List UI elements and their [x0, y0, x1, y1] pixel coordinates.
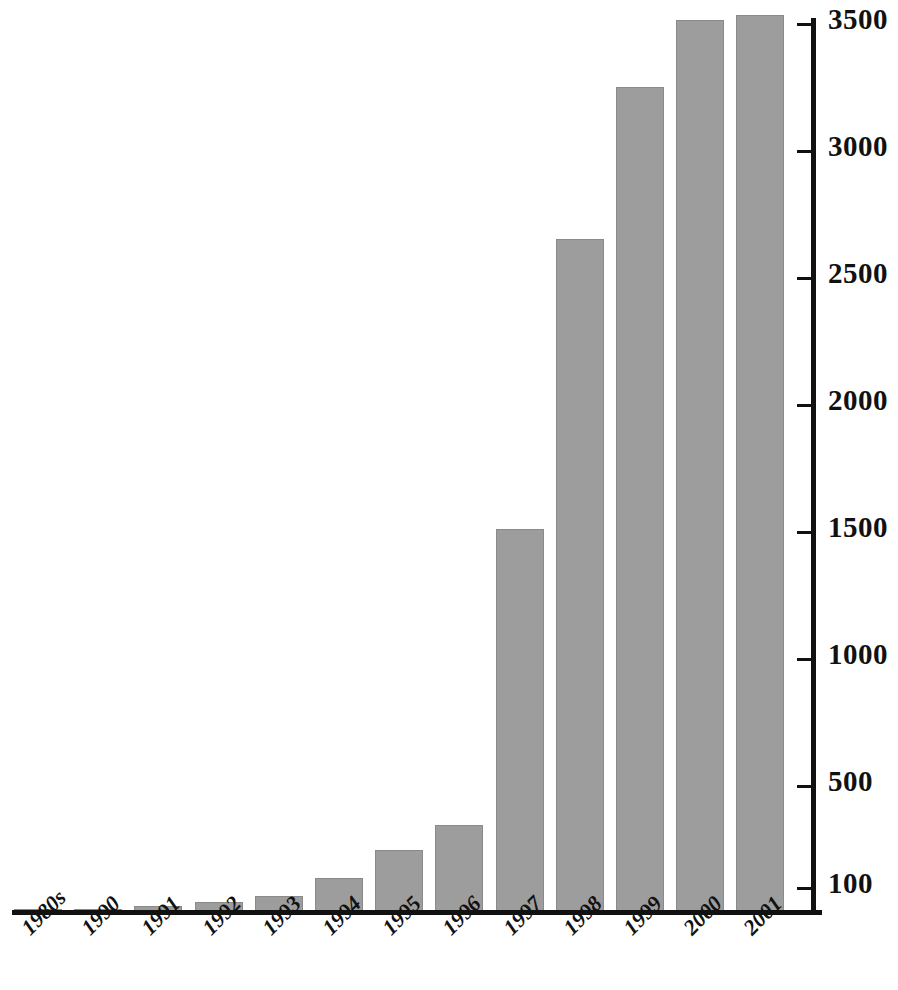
y-axis-tick-label: 100 [828, 867, 873, 900]
y-axis-tick-mark [797, 150, 812, 153]
y-axis-tick-label: 3500 [828, 3, 888, 36]
y-axis-tick-label: 500 [828, 765, 873, 798]
bar [736, 15, 784, 913]
bar-chart: 100500100015002000250030003500 1980s1990… [0, 0, 898, 990]
y-axis-tick-mark [797, 23, 812, 26]
plot-area [0, 0, 813, 913]
y-axis-tick-label: 1000 [828, 638, 888, 671]
y-axis-tick-mark [797, 785, 812, 788]
bar [616, 87, 664, 913]
y-axis-tick-mark [797, 658, 812, 661]
bar [496, 529, 544, 913]
y-axis-tick-mark [797, 531, 812, 534]
y-axis-tick-label: 2500 [828, 257, 888, 290]
y-axis-tick-mark [797, 277, 812, 280]
bar [676, 20, 724, 913]
y-axis-tick-label: 1500 [828, 511, 888, 544]
y-axis-tick-label: 2000 [828, 384, 888, 417]
y-axis-tick-mark [797, 404, 812, 407]
y-axis-tick-mark [797, 887, 812, 890]
bar [556, 239, 604, 913]
y-axis-tick-label: 3000 [828, 130, 888, 163]
